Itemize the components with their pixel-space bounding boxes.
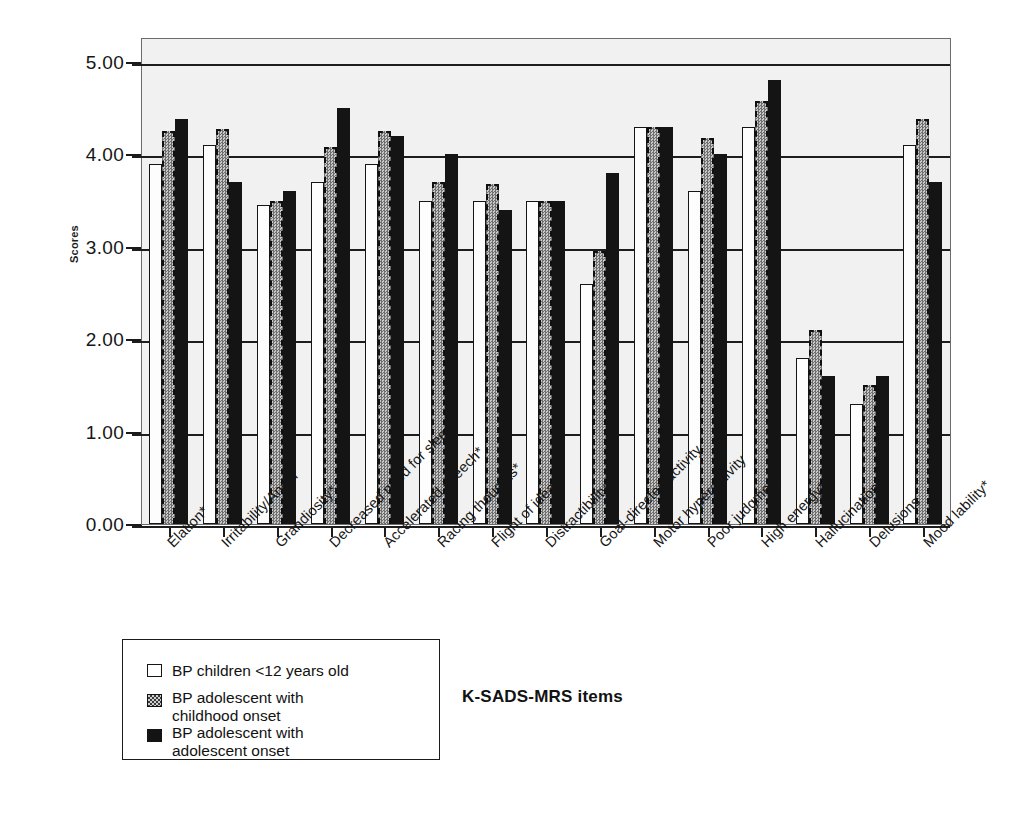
bar-group xyxy=(734,39,788,524)
bar-group xyxy=(304,39,358,524)
legend-swatch-black xyxy=(147,729,162,742)
bar-groups xyxy=(142,39,950,524)
legend-label-line: BP adolescent with xyxy=(172,724,304,741)
bar xyxy=(486,184,499,524)
bar xyxy=(257,205,270,524)
bar xyxy=(216,129,229,524)
legend-swatch-white xyxy=(147,664,162,677)
y-axis-tick-label: 1.00 xyxy=(56,422,124,444)
bar-group xyxy=(142,39,196,524)
bar xyxy=(432,182,445,524)
bar xyxy=(162,131,175,524)
bar xyxy=(688,191,701,524)
bar xyxy=(337,108,350,524)
bar-group xyxy=(573,39,627,524)
bar xyxy=(647,127,660,524)
plot-area xyxy=(141,38,951,525)
legend-label-line: BP children <12 years old xyxy=(172,662,349,679)
x-axis-title: K-SADS-MRS items xyxy=(462,687,623,707)
legend-item: BP children <12 years old xyxy=(147,662,349,680)
x-axis-category-labels: Elation*Irritability/AngerGrandiosity*De… xyxy=(141,525,951,655)
legend-label-line: adolescent onset xyxy=(172,742,304,760)
bar xyxy=(701,138,714,524)
bar xyxy=(229,182,242,524)
legend-label-2: BP adolescent withadolescent onset xyxy=(172,724,304,759)
bar xyxy=(929,182,942,524)
legend-label-line: BP adolescent with xyxy=(172,689,304,706)
bar xyxy=(768,80,781,524)
bar xyxy=(606,173,619,524)
bar xyxy=(876,376,889,524)
y-axis-tick-label: 3.00 xyxy=(56,237,124,259)
bar-group xyxy=(196,39,250,524)
bar xyxy=(822,376,835,524)
bar xyxy=(419,201,432,524)
y-axis-tick-label: 5.00 xyxy=(56,52,124,74)
bar-group xyxy=(627,39,681,524)
y-axis-tick-label: 4.00 xyxy=(56,144,124,166)
bar xyxy=(324,147,337,524)
legend-swatch-checkered xyxy=(147,694,162,707)
legend-label-1: BP adolescent withchildhood onset xyxy=(172,689,304,724)
bar xyxy=(473,201,486,524)
bar-group xyxy=(896,39,950,524)
bar xyxy=(634,127,647,524)
bar xyxy=(755,101,768,524)
bar-group xyxy=(357,39,411,524)
chart-figure: Scores 0.001.002.003.004.005.00 Elation*… xyxy=(0,0,1014,813)
bar xyxy=(365,164,378,524)
bar xyxy=(175,119,188,524)
legend-item: BP adolescent withchildhood onset xyxy=(147,689,304,724)
bar xyxy=(526,201,539,524)
y-axis-tick-label: 0.00 xyxy=(56,514,124,536)
bar xyxy=(311,182,324,524)
bar xyxy=(149,164,162,524)
bar xyxy=(903,145,916,524)
legend-item: BP adolescent withadolescent onset xyxy=(147,724,304,759)
bar-group xyxy=(250,39,304,524)
bar-group xyxy=(519,39,573,524)
bar xyxy=(203,145,216,524)
y-axis-tick-label: 2.00 xyxy=(56,329,124,351)
bar-group xyxy=(788,39,842,524)
legend-label-line: childhood onset xyxy=(172,707,304,725)
bar xyxy=(916,119,929,524)
bar xyxy=(378,131,391,524)
bar-group xyxy=(842,39,896,524)
legend-label-0: BP children <12 years old xyxy=(172,662,349,680)
chart-legend: BP children <12 years old BP adolescent … xyxy=(122,639,440,760)
